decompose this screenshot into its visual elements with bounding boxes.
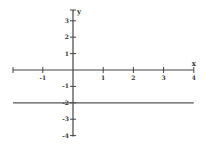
x-tick-label: 2 (131, 74, 135, 81)
y-tick-label: 3 (65, 17, 69, 24)
x-tick-label: 3 (162, 74, 166, 81)
x-tick-label: 4 (192, 74, 196, 81)
x-tick-label: 1 (101, 74, 105, 81)
y-tick-label: 1 (65, 50, 69, 57)
graph-plot: -11234321-1-2-3-4yx (0, 0, 210, 154)
y-tick-label: -1 (62, 82, 69, 89)
x-tick-label: -1 (39, 74, 46, 81)
x-axis-label: x (192, 59, 197, 68)
y-tick-label: -3 (62, 115, 69, 122)
y-tick-label: -4 (62, 132, 69, 139)
y-tick-label: 2 (65, 33, 69, 40)
y-axis-label: y (76, 7, 82, 16)
